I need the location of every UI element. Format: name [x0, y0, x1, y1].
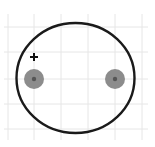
- pad-negative: [105, 69, 125, 89]
- polarity-plus-icon: [30, 53, 38, 61]
- footprint-canvas: [0, 0, 155, 147]
- pad-positive: [24, 69, 44, 89]
- drill-hole-icon: [113, 77, 117, 81]
- drill-hole-icon: [32, 77, 36, 81]
